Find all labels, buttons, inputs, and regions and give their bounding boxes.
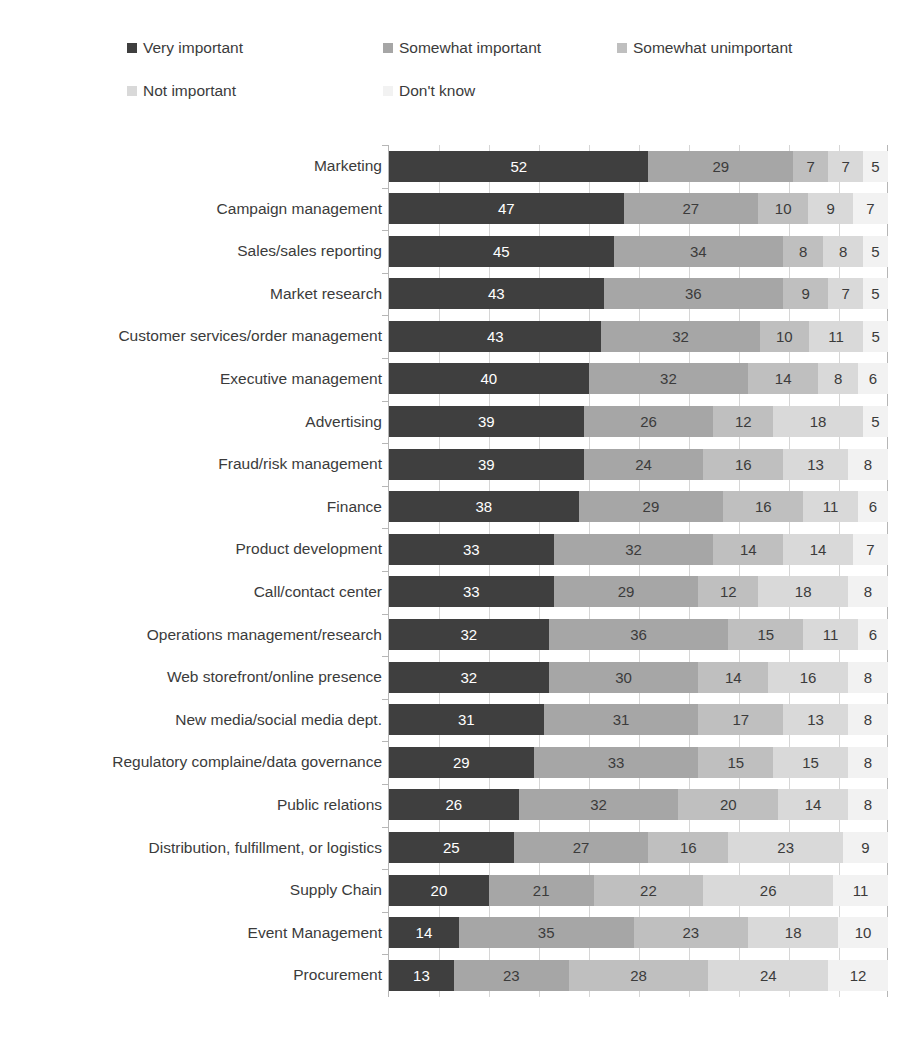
bar-segment-4[interactable]: 6 xyxy=(858,619,888,650)
bar-segment-2[interactable]: 28 xyxy=(569,960,709,991)
bar-segment-2[interactable]: 15 xyxy=(698,747,773,778)
stacked-bar[interactable]: 433210115 xyxy=(389,321,888,352)
bar-segment-3[interactable]: 26 xyxy=(703,875,833,906)
bar-segment-0[interactable]: 47 xyxy=(389,193,624,224)
bar-segment-4[interactable]: 8 xyxy=(848,662,888,693)
bar-segment-3[interactable]: 11 xyxy=(809,321,863,352)
bar-segment-3[interactable]: 16 xyxy=(768,662,848,693)
bar-segment-0[interactable]: 39 xyxy=(389,406,584,437)
stacked-bar[interactable]: 313117138 xyxy=(389,704,888,735)
bar-segment-4[interactable]: 5 xyxy=(863,278,888,309)
bar-segment-2[interactable]: 23 xyxy=(634,917,749,948)
stacked-bar[interactable]: 333214147 xyxy=(389,534,888,565)
bar-segment-4[interactable]: 8 xyxy=(848,449,888,480)
bar-segment-1[interactable]: 23 xyxy=(454,960,569,991)
bar-segment-0[interactable]: 39 xyxy=(389,449,584,480)
bar-segment-4[interactable]: 12 xyxy=(828,960,888,991)
bar-segment-0[interactable]: 20 xyxy=(389,875,489,906)
stacked-bar[interactable]: 323615116 xyxy=(389,619,888,650)
bar-segment-2[interactable]: 12 xyxy=(698,576,758,607)
bar-segment-0[interactable]: 33 xyxy=(389,534,554,565)
bar-segment-2[interactable]: 7 xyxy=(793,151,828,182)
legend-item-1[interactable]: Somewhat important xyxy=(383,40,541,56)
bar-segment-1[interactable]: 32 xyxy=(601,321,759,352)
bar-segment-1[interactable]: 27 xyxy=(514,832,649,863)
bar-segment-2[interactable]: 10 xyxy=(760,321,809,352)
bar-segment-4[interactable]: 8 xyxy=(848,747,888,778)
bar-segment-4[interactable]: 7 xyxy=(853,534,888,565)
bar-segment-0[interactable]: 52 xyxy=(389,151,648,182)
bar-segment-4[interactable]: 7 xyxy=(853,193,888,224)
bar-segment-0[interactable]: 45 xyxy=(389,236,614,267)
bar-segment-0[interactable]: 29 xyxy=(389,747,534,778)
bar-segment-2[interactable]: 15 xyxy=(728,619,803,650)
bar-segment-1[interactable]: 33 xyxy=(534,747,699,778)
bar-segment-3[interactable]: 13 xyxy=(783,704,848,735)
bar-segment-0[interactable]: 26 xyxy=(389,789,519,820)
bar-segment-0[interactable]: 32 xyxy=(389,662,549,693)
bar-segment-4[interactable]: 8 xyxy=(848,789,888,820)
bar-segment-2[interactable]: 17 xyxy=(698,704,783,735)
bar-segment-2[interactable]: 14 xyxy=(698,662,768,693)
bar-segment-0[interactable]: 13 xyxy=(389,960,454,991)
bar-segment-1[interactable]: 36 xyxy=(604,278,784,309)
bar-segment-3[interactable]: 11 xyxy=(803,491,858,522)
bar-segment-3[interactable]: 18 xyxy=(748,917,838,948)
bar-segment-1[interactable]: 29 xyxy=(554,576,699,607)
bar-segment-1[interactable]: 32 xyxy=(589,363,749,394)
bar-segment-4[interactable]: 6 xyxy=(858,491,888,522)
bar-segment-1[interactable]: 24 xyxy=(584,449,704,480)
stacked-bar[interactable]: 382916116 xyxy=(389,491,888,522)
stacked-bar[interactable]: 4336975 xyxy=(389,278,888,309)
stacked-bar[interactable]: 2021222611 xyxy=(389,875,888,906)
bar-segment-2[interactable]: 9 xyxy=(783,278,828,309)
bar-segment-4[interactable]: 9 xyxy=(843,832,888,863)
bar-segment-4[interactable]: 5 xyxy=(863,406,888,437)
legend-item-4[interactable]: Don't know xyxy=(383,83,475,99)
stacked-bar[interactable]: 252716239 xyxy=(389,832,888,863)
stacked-bar[interactable]: 293315158 xyxy=(389,747,888,778)
bar-segment-1[interactable]: 35 xyxy=(459,917,634,948)
bar-segment-1[interactable]: 34 xyxy=(614,236,784,267)
bar-segment-0[interactable]: 40 xyxy=(389,363,589,394)
bar-segment-2[interactable]: 16 xyxy=(703,449,783,480)
bar-segment-0[interactable]: 33 xyxy=(389,576,554,607)
stacked-bar[interactable]: 40321486 xyxy=(389,363,888,394)
stacked-bar[interactable]: 392416138 xyxy=(389,449,888,480)
bar-segment-4[interactable]: 5 xyxy=(863,236,888,267)
bar-segment-3[interactable]: 9 xyxy=(808,193,853,224)
bar-segment-3[interactable]: 18 xyxy=(773,406,863,437)
bar-segment-2[interactable]: 14 xyxy=(748,363,818,394)
bar-segment-0[interactable]: 31 xyxy=(389,704,544,735)
stacked-bar[interactable]: 392612185 xyxy=(389,406,888,437)
bar-segment-0[interactable]: 43 xyxy=(389,321,601,352)
bar-segment-0[interactable]: 25 xyxy=(389,832,514,863)
bar-segment-4[interactable]: 8 xyxy=(848,704,888,735)
stacked-bar[interactable]: 5229775 xyxy=(389,151,888,182)
bar-segment-3[interactable]: 14 xyxy=(778,789,848,820)
bar-segment-2[interactable]: 16 xyxy=(723,491,803,522)
bar-segment-4[interactable]: 6 xyxy=(858,363,888,394)
bar-segment-0[interactable]: 32 xyxy=(389,619,549,650)
bar-segment-3[interactable]: 18 xyxy=(758,576,848,607)
bar-segment-3[interactable]: 7 xyxy=(828,278,863,309)
bar-segment-1[interactable]: 31 xyxy=(544,704,699,735)
bar-segment-0[interactable]: 38 xyxy=(389,491,579,522)
bar-segment-1[interactable]: 36 xyxy=(549,619,729,650)
bar-segment-2[interactable]: 16 xyxy=(648,832,728,863)
bar-segment-2[interactable]: 10 xyxy=(758,193,808,224)
bar-segment-3[interactable]: 8 xyxy=(818,363,858,394)
bar-segment-1[interactable]: 29 xyxy=(579,491,724,522)
stacked-bar[interactable]: 47271097 xyxy=(389,193,888,224)
bar-segment-0[interactable]: 43 xyxy=(389,278,604,309)
stacked-bar[interactable]: 1435231810 xyxy=(389,917,888,948)
bar-segment-2[interactable]: 20 xyxy=(678,789,778,820)
bar-segment-3[interactable]: 14 xyxy=(783,534,853,565)
bar-segment-3[interactable]: 7 xyxy=(828,151,863,182)
legend-item-3[interactable]: Not important xyxy=(127,83,236,99)
bar-segment-2[interactable]: 22 xyxy=(594,875,704,906)
legend-item-0[interactable]: Very important xyxy=(127,40,243,56)
bar-segment-3[interactable]: 24 xyxy=(708,960,828,991)
bar-segment-3[interactable]: 11 xyxy=(803,619,858,650)
bar-segment-4[interactable]: 5 xyxy=(863,321,888,352)
